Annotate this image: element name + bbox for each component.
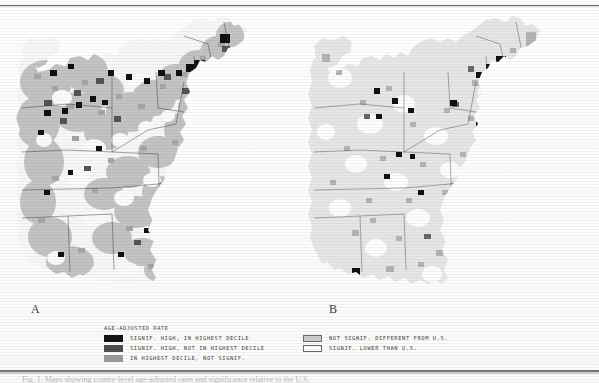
panel-b-map bbox=[300, 12, 590, 308]
legend-label: SIGNIF. LOWER THAN U.S. bbox=[329, 345, 417, 351]
legend-swatch-signif-lower bbox=[303, 345, 322, 352]
legend-title: AGE-ADJUSTED RATE bbox=[104, 325, 265, 331]
map-a-body bbox=[8, 12, 298, 308]
panel-a-map bbox=[8, 12, 298, 308]
legend-age-adjusted-rate: AGE-ADJUSTED RATE SIGNIF. HIGH, IN HIGHE… bbox=[104, 325, 265, 364]
figure-caption: Fig. 1. Maps showing county-level age-ad… bbox=[22, 374, 582, 383]
legend-item: SIGNIF. HIGH, IN HIGHEST DECILE bbox=[104, 334, 265, 342]
panel-a-letter: A bbox=[31, 302, 40, 317]
legend-label: SIGNIF. HIGH, IN HIGHEST DECILE bbox=[130, 335, 249, 341]
legend-swatch-signif-high-not-highest-decile bbox=[104, 345, 123, 352]
map-b-svg bbox=[300, 12, 590, 308]
legend-item: SIGNIF. HIGH, NOT IN HIGHEST DECILE bbox=[104, 344, 265, 352]
top-rule bbox=[0, 5, 599, 6]
legend-swatch-highest-decile-not-signif bbox=[104, 355, 123, 362]
legend-item: SIGNIF. LOWER THAN U.S. bbox=[303, 344, 448, 352]
map-a-svg bbox=[8, 12, 298, 308]
map-b-body bbox=[300, 12, 590, 308]
panel-b-letter: B bbox=[329, 302, 338, 317]
legend-item: NOT SIGNIF. DIFFERENT FROM U.S. bbox=[303, 334, 448, 342]
legend-label: SIGNIF. HIGH, NOT IN HIGHEST DECILE bbox=[130, 345, 265, 351]
legend-label: IN HIGHEST DECILE, NOT SIGNIF. bbox=[130, 355, 245, 361]
legend-swatch-signif-high-highest-decile bbox=[104, 335, 123, 342]
legend-swatch-not-signif-different bbox=[303, 335, 322, 342]
legend-item: IN HIGHEST DECILE, NOT SIGNIF. bbox=[104, 354, 265, 362]
legend-label: NOT SIGNIF. DIFFERENT FROM U.S. bbox=[329, 335, 448, 341]
bottom-rule bbox=[0, 370, 599, 372]
legend-significance: NOT SIGNIF. DIFFERENT FROM U.S. SIGNIF. … bbox=[303, 334, 448, 354]
